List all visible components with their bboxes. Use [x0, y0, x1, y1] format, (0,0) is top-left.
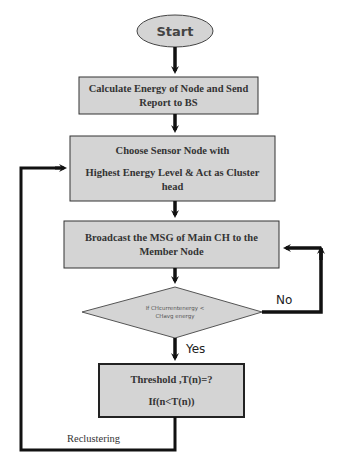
start-label: Start — [137, 15, 213, 47]
choose-line-2: Highest Energy Level & Act as Cluster — [86, 166, 260, 180]
choose-line-1: Choose Sensor Node with — [116, 144, 230, 158]
broadcast-label: Broadcast the MSG of Main CH to the Memb… — [64, 221, 279, 268]
calc-line-1: Calculate Energy of Node and Send — [89, 82, 249, 96]
choose-line-3: head — [162, 180, 184, 194]
decision-line-2: CHavg energy — [155, 312, 194, 320]
calc-line-2: Report to BS — [139, 96, 197, 110]
start-text: Start — [157, 24, 194, 39]
decision-label: If CHcurrentenergy < CHavg energy — [130, 300, 220, 324]
broadcast-line-1: Broadcast the MSG of Main CH to the — [85, 231, 258, 245]
calc-energy-label: Calculate Energy of Node and Send Report… — [79, 77, 258, 114]
threshold-line-1: Threshold ,T(n)=? — [130, 373, 212, 387]
no-label: No — [276, 293, 292, 307]
threshold-label: Threshold ,T(n)=? If(n<T(n)) — [99, 364, 244, 417]
reclustering-label: Reclustering — [67, 433, 120, 444]
threshold-line-2: If(n<T(n)) — [148, 395, 194, 409]
yes-label: Yes — [186, 342, 205, 356]
decision-line-1: If CHcurrentenergy < — [146, 304, 205, 312]
choose-cluster-head-label: Choose Sensor Node with Highest Energy L… — [70, 136, 275, 201]
broadcast-line-2: Member Node — [139, 245, 203, 259]
